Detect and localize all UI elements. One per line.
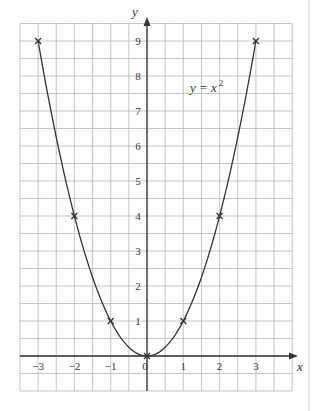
quadratic-graph: −3−2−10123123456789 x y y = x2 <box>0 0 314 411</box>
equation-exponent: 2 <box>219 78 224 88</box>
y-tick-label: 1 <box>135 315 141 327</box>
y-tick-label: 7 <box>135 105 141 117</box>
x-tick-label: 1 <box>181 360 187 372</box>
y-tick-label: 3 <box>135 245 141 257</box>
x-axis-label: x <box>296 359 303 374</box>
y-tick-label: 2 <box>135 280 141 292</box>
tick-labels: −3−2−10123123456789 <box>32 35 259 372</box>
y-tick-label: 6 <box>135 140 141 152</box>
y-tick-label: 8 <box>135 70 141 82</box>
x-tick-label: 3 <box>253 360 259 372</box>
x-tick-label: −1 <box>105 360 117 372</box>
equation-label: y = x2 <box>188 78 223 95</box>
y-tick-label: 5 <box>135 175 141 187</box>
y-tick-label: 4 <box>135 210 141 222</box>
y-tick-label: 9 <box>135 35 141 47</box>
y-axis-arrow-icon <box>144 17 151 26</box>
x-tick-label: 0 <box>142 360 148 372</box>
x-tick-label: −3 <box>32 360 44 372</box>
x-tick-label: 2 <box>217 360 223 372</box>
grid-lines <box>20 24 292 392</box>
y-axis-label: y <box>130 4 138 19</box>
equation-lhs: y = x <box>188 80 217 95</box>
x-tick-label: −2 <box>69 360 81 372</box>
